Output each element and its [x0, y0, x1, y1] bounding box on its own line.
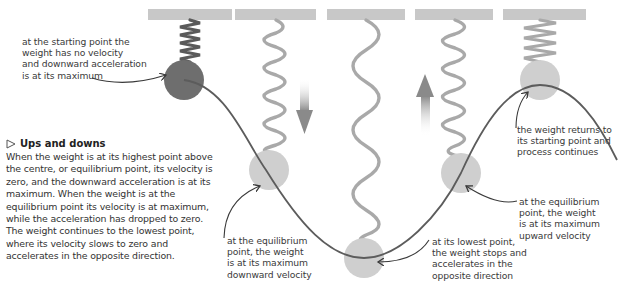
annotation-returns: the weight returns to its starting point…	[517, 124, 612, 158]
explanation-title-text: Ups and downs	[20, 137, 106, 150]
arrow-up-icon	[416, 74, 434, 136]
ceiling-block-4	[415, 9, 493, 20]
explanation-body: When the weight is at its highest point …	[6, 151, 216, 263]
spring-equilibrium-up	[443, 20, 465, 156]
annotation-equilibrium-down: at the equilibrium point, the weight is …	[227, 235, 312, 280]
spring-lowest	[353, 20, 379, 240]
pointer-returns	[516, 92, 528, 128]
spring-equilibrium-down	[264, 20, 285, 152]
ceiling-block-5	[503, 9, 586, 20]
spring-compressed-start	[180, 20, 200, 62]
annotation-equilibrium-up: at the equilibrium point, the weight is …	[519, 196, 600, 241]
ceiling-block-1	[148, 9, 232, 20]
spring-compressed-return	[524, 20, 556, 62]
weight-equilibrium-down	[249, 150, 289, 190]
pointer-equilibrium-down	[224, 186, 260, 238]
annotation-lowest: at its lowest point, the weight stops an…	[432, 236, 527, 281]
explanation-panel: Ups and downs When the weight is at its …	[6, 137, 216, 263]
explanation-title: Ups and downs	[6, 137, 216, 150]
ceiling-block-2	[235, 9, 316, 20]
arrow-down-icon	[296, 78, 313, 134]
annotation-start: at the starting point the weight has no …	[22, 36, 147, 81]
triangle-right-outline-icon	[6, 139, 16, 149]
ceiling-blocks	[148, 9, 586, 20]
